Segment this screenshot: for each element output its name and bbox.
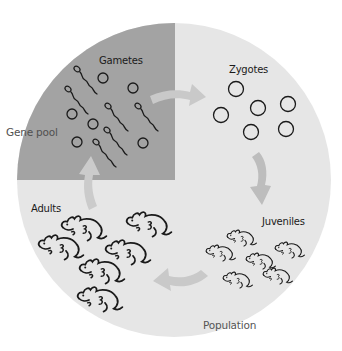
diagram-canvas [0,0,342,351]
life-cycle-diagram: Gametes Zygotes Juveniles Adults Gene po… [0,0,342,351]
gene-pool-region [0,0,175,180]
stage-label-adults: Adults [31,204,61,214]
stage-label-zygotes: Zygotes [229,65,268,75]
stage-label-gametes: Gametes [99,56,143,66]
population-label: Population [203,320,256,331]
stage-label-juveniles: Juveniles [262,217,305,227]
gene-pool-label: Gene pool [6,127,58,138]
